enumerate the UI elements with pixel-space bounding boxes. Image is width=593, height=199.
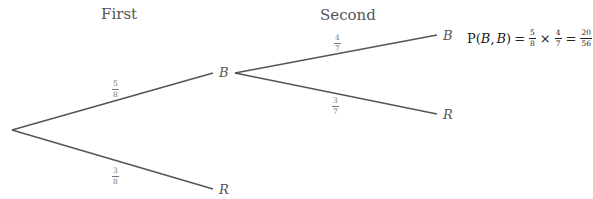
formula-fraction-1: 5 8 bbox=[529, 29, 536, 47]
formula-comma: , bbox=[490, 31, 494, 46]
formula-p: P bbox=[467, 31, 476, 46]
prob-root-to-r: 3 8 bbox=[112, 167, 119, 185]
prob-numerator: 3 bbox=[112, 167, 119, 177]
prob-b-to-b: 4 7 bbox=[334, 34, 341, 52]
formula-numerator: 20 bbox=[580, 29, 592, 39]
node-second-r: R bbox=[443, 108, 453, 121]
header-first: First bbox=[101, 5, 137, 23]
formula-fraction-2: 4 7 bbox=[555, 29, 562, 47]
probability-formula: P ( B , B ) = 5 8 × 4 7 = 20 56 bbox=[467, 29, 593, 47]
node-first-r: R bbox=[219, 183, 229, 196]
prob-b-to-r: 3 7 bbox=[332, 97, 339, 115]
formula-denominator: 8 bbox=[530, 39, 535, 48]
prob-denominator: 7 bbox=[333, 107, 338, 116]
header-second: Second bbox=[320, 6, 376, 24]
prob-denominator: 8 bbox=[113, 177, 118, 186]
formula-denominator: 7 bbox=[556, 39, 561, 48]
prob-numerator: 4 bbox=[334, 34, 341, 44]
prob-numerator: 5 bbox=[112, 80, 119, 90]
formula-times: × bbox=[540, 31, 551, 46]
formula-equals-2: = bbox=[566, 31, 577, 46]
formula-denominator: 56 bbox=[581, 39, 591, 48]
node-first-b: B bbox=[219, 66, 229, 79]
node-second-b: B bbox=[443, 29, 453, 42]
formula-close-paren: ) bbox=[506, 31, 511, 46]
formula-equals-1: = bbox=[514, 31, 525, 46]
formula-arg1: B bbox=[481, 31, 491, 46]
formula-numerator: 5 bbox=[529, 29, 536, 39]
formula-arg2: B bbox=[497, 31, 507, 46]
formula-numerator: 4 bbox=[555, 29, 562, 39]
prob-root-to-b: 5 8 bbox=[112, 80, 119, 98]
formula-result: 20 56 bbox=[580, 29, 592, 47]
prob-denominator: 8 bbox=[113, 90, 118, 99]
prob-denominator: 7 bbox=[335, 44, 340, 53]
prob-numerator: 3 bbox=[332, 97, 339, 107]
